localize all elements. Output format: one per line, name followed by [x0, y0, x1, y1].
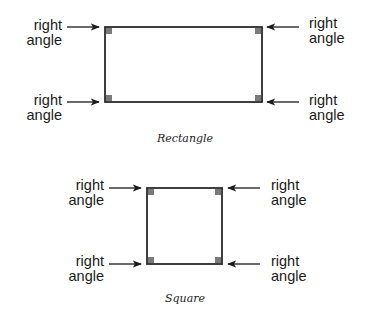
right-angle-marker-icon [215, 257, 221, 263]
square-caption: Square [140, 292, 230, 305]
right-angle-marker-icon [255, 95, 261, 101]
rectangle-shape [105, 27, 262, 102]
right-angle-marker-icon [215, 189, 221, 195]
right-angle-marker-icon [148, 257, 154, 263]
rectangle-arrows [67, 27, 299, 102]
right-angle-marker-icon [106, 28, 112, 34]
diagram-canvas: right angle right angle right angle righ… [0, 0, 371, 322]
square-label-top-right: right angle [271, 178, 331, 208]
square-label-bottom-left: right angle [50, 254, 104, 284]
rectangle-label-bottom-right: right angle [309, 93, 369, 123]
rectangle-caption: Rectangle [140, 132, 230, 145]
rectangle-label-top-right: right angle [309, 16, 369, 46]
rectangle-label-top-left: right angle [10, 18, 62, 48]
right-angle-marker-icon [148, 189, 154, 195]
square-label-bottom-right: right angle [271, 254, 331, 284]
right-angle-marker-icon [106, 95, 112, 101]
square-label-top-left: right angle [50, 178, 104, 208]
square-shape [147, 188, 222, 264]
rectangle-label-bottom-left: right angle [10, 93, 62, 123]
square-arrows [109, 188, 260, 264]
right-angle-marker-icon [255, 28, 261, 34]
